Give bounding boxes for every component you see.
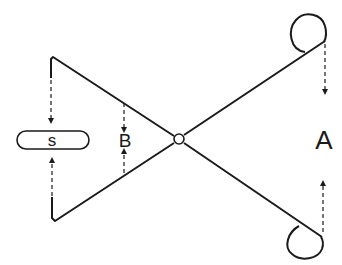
lower-loop (287, 226, 323, 259)
pivot-circle (174, 134, 184, 144)
lower-arm (52, 143, 322, 237)
scissor-diagram: s B A (0, 0, 342, 265)
label-s: s (48, 131, 57, 150)
upper-loop (291, 14, 326, 52)
upper-arm (51, 41, 325, 136)
label-a: A (315, 125, 333, 155)
label-b: B (119, 130, 132, 151)
